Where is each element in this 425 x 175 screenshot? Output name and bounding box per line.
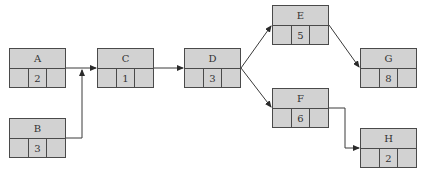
edge-b-c (66, 70, 82, 138)
node-a: A 2 (9, 48, 66, 88)
node-cell-left (361, 69, 379, 88)
node-e: E 5 (272, 5, 329, 45)
node-cell-left (361, 149, 379, 168)
node-duration: 3 (28, 139, 48, 158)
node-duration: 2 (28, 69, 48, 88)
node-c: C 1 (97, 48, 154, 88)
edge-d-f (241, 68, 271, 107)
node-f: F 6 (272, 88, 329, 128)
node-label: C (98, 49, 153, 69)
node-h: H 2 (360, 128, 417, 168)
node-cell-right (398, 149, 416, 168)
node-cell-right (310, 109, 328, 128)
node-cell-left (273, 109, 291, 128)
network-diagram: A 2 B 3 C 1 D 3 E 5 F 6 G 8 H 2 (0, 0, 425, 175)
node-label: E (273, 6, 328, 26)
node-cell-left (273, 26, 291, 45)
edge-e-g (329, 25, 359, 67)
node-cell-right (47, 69, 65, 88)
node-duration: 8 (379, 69, 399, 88)
node-cell-left (10, 69, 28, 88)
node-b: B 3 (9, 118, 66, 158)
node-duration: 3 (203, 69, 223, 88)
node-duration: 1 (116, 69, 136, 88)
node-cell-left (10, 139, 28, 158)
node-cell-left (185, 69, 203, 88)
node-g: G 8 (360, 48, 417, 88)
node-label: A (10, 49, 65, 69)
edge-d-e (241, 26, 271, 68)
node-cell-right (47, 139, 65, 158)
node-duration: 6 (291, 109, 311, 128)
node-d: D 3 (184, 48, 241, 88)
node-label: B (10, 119, 65, 139)
node-label: G (361, 49, 416, 69)
node-duration: 2 (379, 149, 399, 168)
node-cell-right (398, 69, 416, 88)
node-cell-right (135, 69, 153, 88)
node-cell-right (310, 26, 328, 45)
node-label: D (185, 49, 240, 69)
node-cell-right (222, 69, 240, 88)
edge-f-h (329, 108, 359, 148)
node-label: F (273, 89, 328, 109)
node-duration: 5 (291, 26, 311, 45)
node-label: H (361, 129, 416, 149)
node-cell-left (98, 69, 116, 88)
